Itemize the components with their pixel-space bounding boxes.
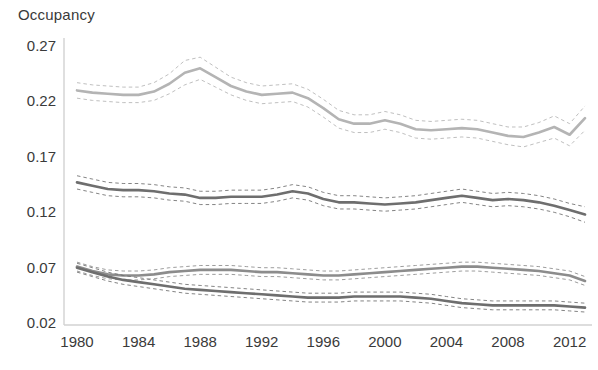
plot-canvas (0, 0, 598, 370)
occupancy-trend-chart: Occupancy 0.270.220.170.120.070.02 19801… (0, 0, 598, 370)
confidence-band-lower (77, 189, 585, 222)
series-line (77, 267, 585, 281)
series-line (77, 182, 585, 214)
data-series-group (77, 57, 585, 312)
